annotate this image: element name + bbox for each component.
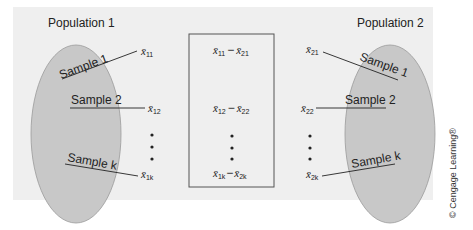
pop2-sample-2-label: Sample 2 — [345, 93, 396, 107]
population-1-title: Population 1 — [48, 16, 115, 30]
population-2-title: Population 2 — [357, 16, 424, 30]
dot — [230, 134, 233, 137]
sampling-distribution-diagram: Population 1 Sample 1 x̄11 Sample 2 x̄12… — [0, 0, 473, 230]
dot — [230, 146, 233, 149]
dot — [308, 157, 311, 160]
pop1-sample-2-label: Sample 2 — [71, 93, 122, 107]
dot — [230, 157, 233, 160]
dot — [308, 146, 311, 149]
copyright-credit: © Cengage Learning® — [448, 128, 458, 218]
dot — [150, 145, 153, 148]
dot — [150, 157, 153, 160]
dot — [308, 134, 311, 137]
dot — [150, 133, 153, 136]
